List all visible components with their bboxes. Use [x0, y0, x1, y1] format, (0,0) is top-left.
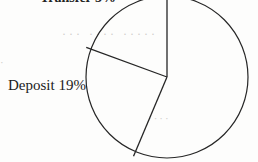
slice-label-transfer-clip: Transfer 5%: [40, 0, 132, 4]
slice-label-deposit: Deposit 19%: [8, 77, 86, 94]
slice-label-transfer: Transfer 5%: [40, 0, 116, 4]
pie-chart-figure: ··· ···· ····· ···· · Transfer 5% Deposi…: [0, 0, 258, 162]
pie-slice-divider-upper-left: [86, 47, 167, 77]
pie-slice-divider-lower-left: [134, 77, 167, 156]
